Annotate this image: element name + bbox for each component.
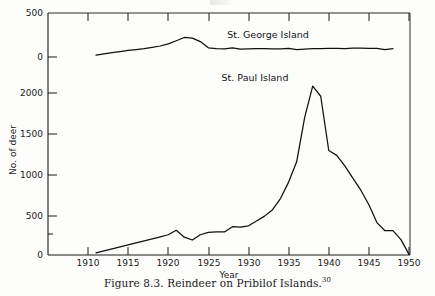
x-tick-label: 1945 bbox=[358, 258, 381, 268]
y-tick-label-upper: 500 bbox=[26, 8, 43, 18]
x-tick-label: 1940 bbox=[318, 258, 341, 268]
caption-footnote: 30 bbox=[322, 276, 331, 284]
x-tick-label: 1910 bbox=[77, 258, 100, 268]
x-tick-label: 1930 bbox=[238, 258, 261, 268]
series-label-st-paul: St. Paul Island bbox=[222, 72, 289, 83]
y-ticks-lower bbox=[48, 93, 57, 234]
y-tick-label-lower: 1000 bbox=[20, 170, 43, 180]
figure-container: 1910 1915 1920 1925 1930 1935 1940 1945 … bbox=[0, 0, 435, 296]
y-tick-label-lower: 2000 bbox=[20, 88, 43, 98]
y-tick-label-lower: 0 bbox=[37, 250, 43, 260]
y-axis-title: No. of deer bbox=[8, 125, 18, 175]
x-ticks-bottom bbox=[88, 247, 409, 255]
y-tick-label-upper: 0 bbox=[37, 52, 43, 62]
y-tick-labels: 500 0 2000 1500 1000 500 0 bbox=[20, 8, 43, 260]
x-tick-label: 1925 bbox=[198, 258, 221, 268]
x-tick-label: 1915 bbox=[117, 258, 140, 268]
reindeer-line-chart: 1910 1915 1920 1925 1930 1935 1940 1945 … bbox=[0, 0, 435, 296]
data-line-st-george bbox=[96, 37, 393, 55]
y-tick-label-lower: 1500 bbox=[20, 129, 43, 139]
y-tick-label-lower: 500 bbox=[26, 211, 43, 221]
data-line-st-paul bbox=[96, 86, 409, 254]
caption-text: Figure 8.3. Reindeer on Pribilof Islands… bbox=[104, 277, 322, 289]
series-label-st-george: St. George Island bbox=[227, 29, 309, 40]
x-tick-label: 1935 bbox=[278, 258, 301, 268]
figure-caption: Figure 8.3. Reindeer on Pribilof Islands… bbox=[0, 276, 435, 289]
x-tick-label: 1920 bbox=[157, 258, 180, 268]
x-tick-labels: 1910 1915 1920 1925 1930 1935 1940 1945 … bbox=[77, 258, 421, 268]
x-ticks-top bbox=[88, 13, 409, 21]
x-tick-label: 1950 bbox=[398, 258, 421, 268]
plot-frame bbox=[48, 13, 410, 255]
